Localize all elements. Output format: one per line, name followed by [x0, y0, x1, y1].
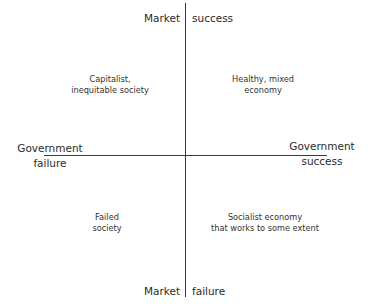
- quadrant-bottom-right-line1: Socialist economy: [200, 212, 330, 223]
- quadrant-top-left: Capitalist, inequitable society: [55, 74, 165, 96]
- axis-right-label: Government success: [289, 140, 355, 167]
- axis-bottom-left-label: Market: [144, 285, 180, 297]
- quadrant-bottom-left-line1: Failed: [77, 212, 137, 223]
- axis-left-label: Government failure: [17, 142, 83, 169]
- axis-top-right-label: success: [192, 12, 233, 24]
- quadrant-bottom-right: Socialist economy that works to some ext…: [200, 212, 330, 234]
- quadrant-top-right-line1: Healthy, mixed: [213, 74, 313, 85]
- quadrant-top-left-line2: inequitable society: [55, 85, 165, 96]
- quadrant-top-right: Healthy, mixed economy: [213, 74, 313, 96]
- quadrant-bottom-right-line2: that works to some extent: [200, 223, 330, 234]
- axis-left-line1: Government: [17, 142, 83, 154]
- quadrant-top-right-line2: economy: [213, 85, 313, 96]
- axis-right-line2: success: [289, 155, 355, 167]
- quadrant-top-left-line1: Capitalist,: [55, 74, 165, 85]
- quadrant-bottom-left: Failed society: [77, 212, 137, 234]
- horizontal-axis-government: [44, 155, 327, 156]
- vertical-axis-market: [185, 3, 186, 297]
- axis-bottom-right-label: failure: [192, 285, 225, 297]
- axis-left-line2: failure: [17, 157, 83, 169]
- axis-top-left-label: Market: [144, 12, 180, 24]
- quadrant-bottom-left-line2: society: [77, 223, 137, 234]
- axis-right-line1: Government: [289, 140, 355, 152]
